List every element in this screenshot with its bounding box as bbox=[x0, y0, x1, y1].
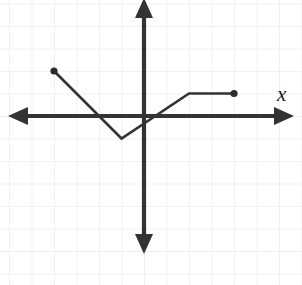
endpoint-dot-left bbox=[50, 67, 57, 74]
graph-canvas: x bbox=[0, 0, 302, 285]
endpoint-dot-right bbox=[230, 90, 237, 97]
coordinate-plane-svg bbox=[0, 0, 302, 285]
grid-lines bbox=[0, 0, 302, 285]
x-axis-label: x bbox=[277, 84, 286, 105]
